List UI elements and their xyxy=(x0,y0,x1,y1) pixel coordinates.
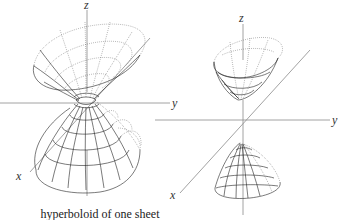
x-axis xyxy=(30,38,150,172)
hyperboloid-two-sheets-plot: z y x xyxy=(155,11,338,215)
z-axis-label: z xyxy=(83,0,89,12)
x-axis-label: x xyxy=(15,169,22,183)
figure-canvas: z y x xyxy=(0,0,345,220)
z-axis-label: z xyxy=(238,11,244,25)
hyperboloid-one-sheet-plot: z y x xyxy=(0,0,178,220)
upper-rim-back xyxy=(214,37,283,62)
y-axis-label: y xyxy=(331,113,338,127)
bottom-rim xyxy=(36,150,140,193)
y-axis-label: y xyxy=(171,96,178,110)
caption: hyperboloid of one sheet xyxy=(41,207,161,220)
x-axis-label: x xyxy=(169,188,176,202)
top-rim-back xyxy=(34,24,145,65)
